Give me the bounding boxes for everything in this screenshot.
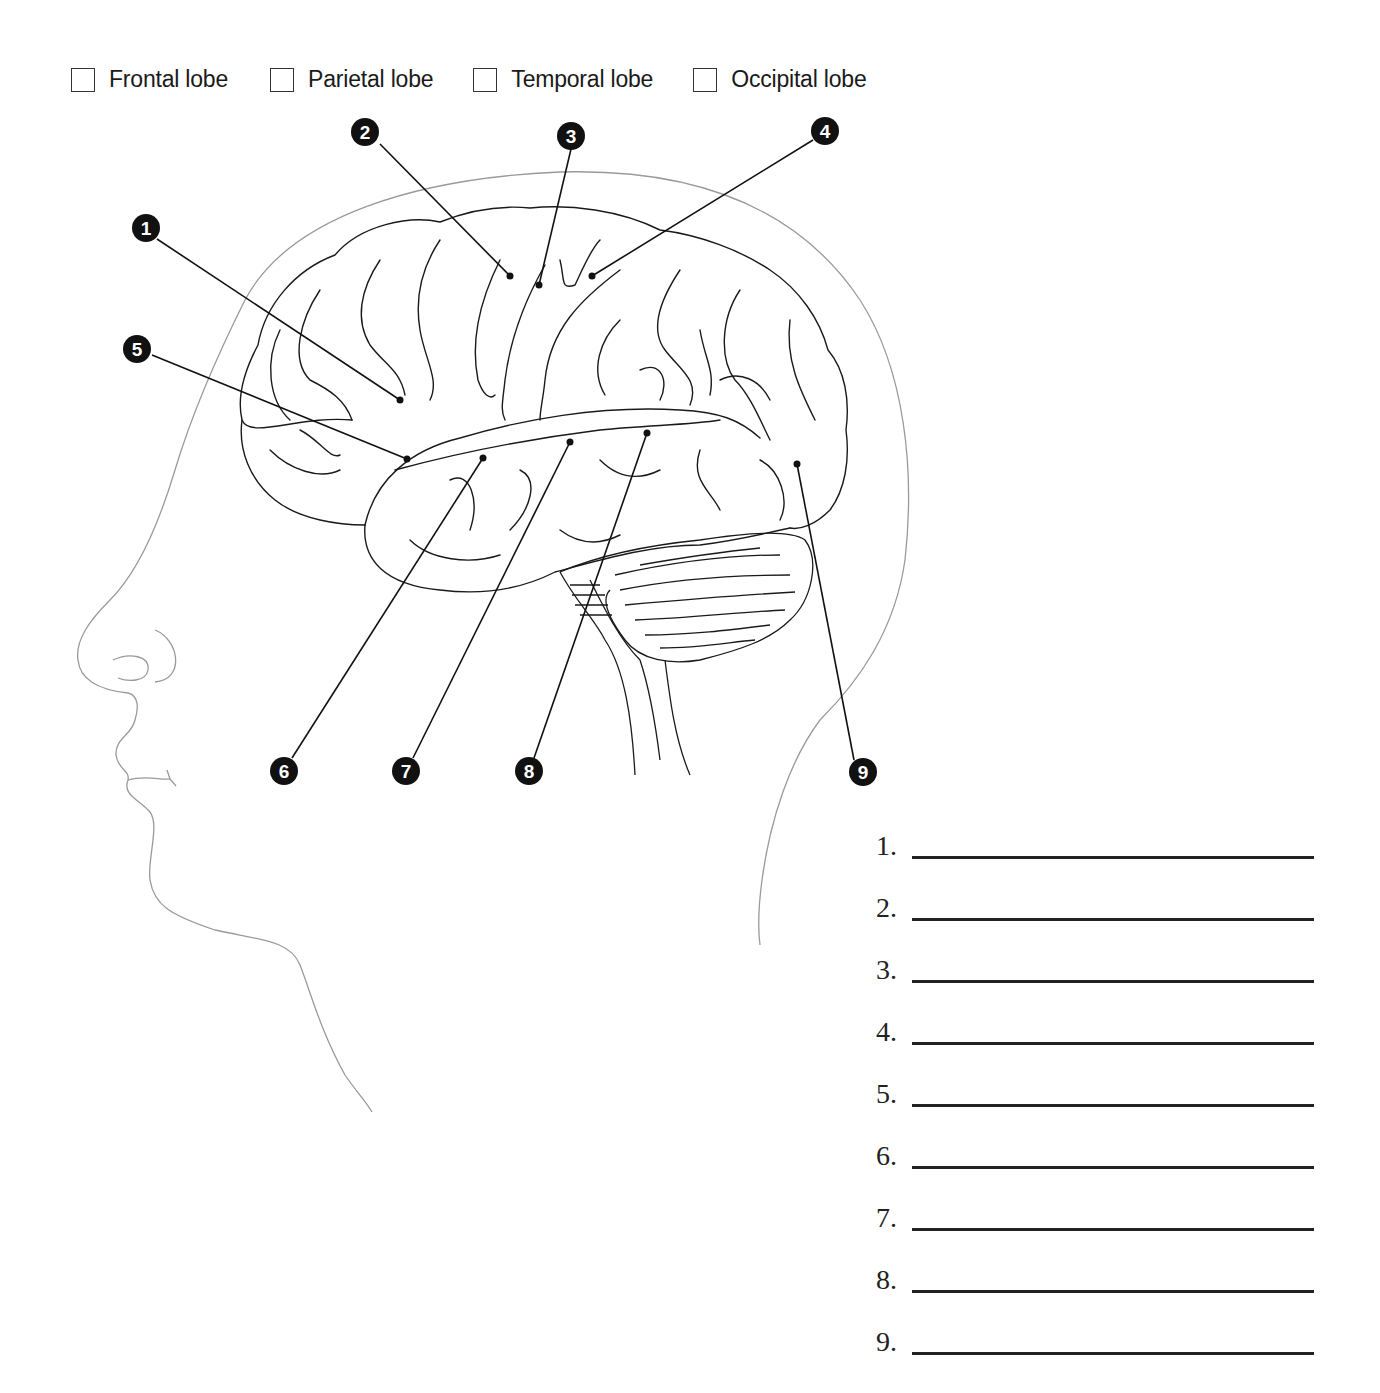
answer-row-7: 7. xyxy=(876,1172,1314,1234)
answer-row-4: 4. xyxy=(876,986,1314,1048)
answer-row-1: 1. xyxy=(876,800,1314,862)
answer-row-6: 6. xyxy=(876,1110,1314,1172)
callout-badge-1: 1 xyxy=(132,214,160,242)
answer-blank-4[interactable] xyxy=(912,1042,1314,1045)
answer-row-3: 3. xyxy=(876,924,1314,986)
answer-number: 7. xyxy=(876,1204,910,1234)
callout-badge-2: 2 xyxy=(351,118,379,146)
answer-blank-7[interactable] xyxy=(912,1228,1314,1231)
answer-row-2: 2. xyxy=(876,862,1314,924)
callout-badge-6: 6 xyxy=(270,757,298,785)
callout-badge-8: 8 xyxy=(515,757,543,785)
callout-badge-4: 4 xyxy=(811,117,839,145)
answer-blank-6[interactable] xyxy=(912,1166,1314,1169)
callout-number: 2 xyxy=(360,122,371,143)
callout-badge-5: 5 xyxy=(123,335,151,363)
answer-number: 1. xyxy=(876,832,910,862)
answer-number: 3. xyxy=(876,956,910,986)
head-outline xyxy=(78,172,909,1112)
answer-number: 5. xyxy=(876,1080,910,1110)
callout-badge-3: 3 xyxy=(557,122,585,150)
callout-badge-9: 9 xyxy=(849,758,877,786)
answer-list: 1. 2. 3. 4. 5. 6. 7. 8. 9. xyxy=(876,800,1314,1358)
answer-blank-5[interactable] xyxy=(912,1104,1314,1107)
callout-number: 5 xyxy=(132,339,143,360)
answer-blank-8[interactable] xyxy=(912,1290,1314,1293)
answer-number: 6. xyxy=(876,1142,910,1172)
answer-number: 9. xyxy=(876,1328,910,1358)
answer-blank-1[interactable] xyxy=(912,856,1314,859)
callout-number: 3 xyxy=(566,126,577,147)
callout-badge-7: 7 xyxy=(392,757,420,785)
callout-number: 1 xyxy=(141,218,152,239)
callout-number: 9 xyxy=(858,762,869,783)
answer-number: 2. xyxy=(876,894,910,924)
callout-lines xyxy=(152,140,854,760)
callout-number: 7 xyxy=(401,761,412,782)
callout-number: 6 xyxy=(279,761,290,782)
answer-blank-3[interactable] xyxy=(912,980,1314,983)
answer-number: 4. xyxy=(876,1018,910,1048)
answer-number: 8. xyxy=(876,1266,910,1296)
answer-row-8: 8. xyxy=(876,1234,1314,1296)
answer-row-9: 9. xyxy=(876,1296,1314,1358)
callout-number: 8 xyxy=(524,761,535,782)
answer-blank-2[interactable] xyxy=(912,918,1314,921)
cerebellum-illustration xyxy=(560,533,813,775)
callout-number: 4 xyxy=(820,121,831,142)
answer-blank-9[interactable] xyxy=(912,1352,1314,1355)
answer-row-5: 5. xyxy=(876,1048,1314,1110)
